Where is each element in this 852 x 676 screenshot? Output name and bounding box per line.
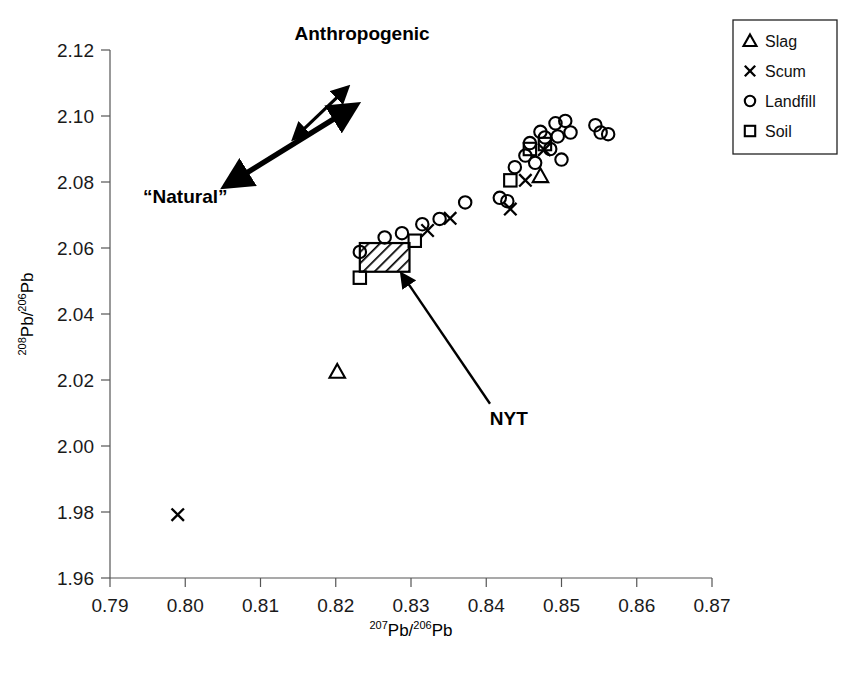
data-point-soil — [504, 174, 516, 186]
nyt-hatched-box — [360, 243, 410, 272]
series-slag — [330, 168, 549, 377]
x-tick-label: 0.85 — [543, 595, 580, 616]
data-point-landfill — [378, 231, 390, 243]
data-point-landfill — [564, 126, 576, 138]
data-point-landfill — [433, 213, 445, 225]
nyt-label: NYT — [490, 408, 528, 429]
legend-label-soil: Soil — [765, 123, 792, 140]
x-axis-title-sup2: 206 — [413, 619, 431, 631]
legend-label-scum: Scum — [765, 63, 806, 80]
x-axis-title-base2: Pb — [432, 621, 453, 640]
natural-anthropogenic-trend-arrow — [227, 106, 355, 185]
chart-figure: 1.961.982.002.022.042.062.082.102.12 0.7… — [0, 0, 852, 676]
y-tick-label: 2.10 — [57, 106, 94, 127]
x-tick-label: 0.79 — [92, 595, 129, 616]
series-landfill — [354, 115, 615, 258]
data-point-scum — [519, 174, 531, 186]
data-point-scum — [172, 508, 184, 520]
y-tick-label: 2.06 — [57, 238, 94, 259]
x-tick-label: 0.86 — [618, 595, 655, 616]
natural-label: “Natural” — [143, 186, 227, 207]
anthropogenic-label: Anthropogenic — [295, 23, 431, 44]
y-tick-label: 2.04 — [57, 304, 94, 325]
x-tick-label: 0.81 — [242, 595, 279, 616]
svg-text:207Pb/206Pb: 207Pb/206Pb — [369, 619, 452, 640]
y-axis-title: 208Pb/206Pb — [16, 272, 37, 355]
data-point-slag — [330, 364, 346, 378]
data-point-landfill — [529, 157, 541, 169]
y-axis-title-base2: Pb — [18, 272, 37, 293]
y-axis-title-base1: Pb/ — [18, 311, 37, 337]
data-point-slag — [533, 168, 549, 182]
x-tick-label: 0.87 — [694, 595, 731, 616]
x-axis-title: 207Pb/206Pb — [369, 619, 452, 640]
data-point-soil — [354, 272, 366, 284]
y-tick-label: 1.98 — [57, 502, 94, 523]
x-tick-label: 0.80 — [167, 595, 204, 616]
data-point-landfill — [509, 161, 521, 173]
chart-legend[interactable]: SlagScumLandfillSoil — [733, 20, 837, 154]
nyt-pointer-arrow — [402, 274, 490, 403]
x-axis-title-sup1: 207 — [369, 619, 387, 631]
y-axis-title-sup2: 206 — [16, 293, 28, 311]
data-point-landfill — [494, 192, 506, 204]
y-axis-tick-labels: 1.961.982.002.022.042.062.082.102.12 — [57, 40, 94, 589]
y-tick-label: 2.00 — [57, 436, 94, 457]
y-tick-label: 2.02 — [57, 370, 94, 391]
data-point-landfill — [459, 196, 471, 208]
scatter-plot-canvas: 1.961.982.002.022.042.062.082.102.12 0.7… — [0, 0, 852, 676]
y-axis-title-sup1: 208 — [16, 337, 28, 355]
legend-label-landfill: Landfill — [765, 93, 816, 110]
y-axis-ticks — [101, 50, 110, 578]
y-tick-label: 1.96 — [57, 568, 94, 589]
data-point-landfill — [555, 153, 567, 165]
y-tick-label: 2.12 — [57, 40, 94, 61]
legend-label-slag: Slag — [765, 33, 797, 50]
y-tick-label: 2.08 — [57, 172, 94, 193]
plot-axes — [101, 50, 712, 587]
x-tick-label: 0.84 — [468, 595, 505, 616]
svg-text:208Pb/206Pb: 208Pb/206Pb — [16, 272, 37, 355]
data-point-landfill — [396, 227, 408, 239]
data-point-landfill — [552, 130, 564, 142]
x-tick-label: 0.82 — [317, 595, 354, 616]
x-axis-ticks — [110, 578, 712, 587]
data-point-scum — [504, 203, 516, 215]
x-tick-label: 0.83 — [393, 595, 430, 616]
x-axis-title-base1: Pb/ — [388, 621, 414, 640]
x-axis-tick-labels: 0.790.800.810.820.830.840.850.860.87 — [92, 595, 731, 616]
data-point-landfill — [602, 128, 614, 140]
nyt-region-group — [360, 243, 410, 272]
